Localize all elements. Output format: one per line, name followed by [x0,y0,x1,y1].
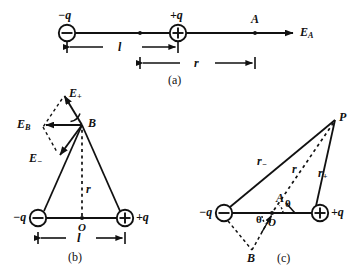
distance-label-r-b: r [86,183,91,195]
charge-label-positive-b: +q [136,211,149,223]
negative-charge-symbol-a [59,25,75,41]
origin-label-O-c: O [268,217,276,228]
charge-label-positive-a: +q [170,9,183,21]
angle-label-theta-upper-c: θ [285,198,291,209]
vector-label-E-plus-b: E+ [69,87,82,101]
negative-charge-symbol-c [216,205,232,221]
dimension-label-l-a: l [118,41,121,53]
vector-label-E-B-b: EB [17,118,30,132]
charge-label-positive-c: +q [331,206,344,218]
construction-line-b-1 [43,99,62,127]
angle-label-theta-lower-c: θ [256,214,262,225]
panel-c [216,120,335,250]
E-minus-subscript: − [37,157,42,166]
angle-arc-theta-lower-c [262,216,266,224]
positive-charge-symbol-b [117,210,133,226]
panel-tag-b: (b) [68,251,82,263]
vector-label-E-minus-b: E− [29,152,42,166]
point-label-B-c: B [247,252,255,264]
dipole-field-figure [0,0,358,271]
E-B-subscript: B [25,123,30,132]
charge-label-negative-b: −q [13,211,26,223]
point-A-dot-a [253,31,257,35]
field-label-E-A: EA [300,26,313,40]
charge-label-negative-c: −q [199,206,212,218]
axis-tick-dot-a [138,31,142,35]
point-label-P-c: P [339,111,346,123]
r-minus-subscript: − [262,160,267,169]
distance-label-r-minus-c: r− [257,155,267,169]
dimension-label-r-a: r [194,57,199,69]
panel-a [59,25,293,69]
distance-label-r-c: r [292,163,297,175]
positive-charge-symbol-c [312,205,328,221]
dimension-l-b [38,232,125,244]
positive-charge-symbol-a [170,25,186,41]
construction-line-c-1 [228,221,252,250]
charge-label-negative-a: −q [58,9,71,21]
point-label-A-c: A [276,192,284,204]
leg-plus-to-B [82,125,120,211]
panel-tag-a: (a) [168,74,181,86]
angle-arc-theta-upper-c [280,206,284,214]
point-label-A-a: A [251,13,259,25]
dimension-label-l-b: l [77,231,81,244]
panel-tag-c: (c) [277,252,290,264]
point-label-B-b: B [88,117,96,129]
negative-charge-symbol-b [30,210,46,226]
origin-O-dot-c [270,211,274,215]
dimension-l-a [67,41,178,53]
E-plus-subscript: + [77,92,82,101]
field-E-A-subscript: A [308,31,313,40]
construction-line-b-2 [43,127,57,152]
origin-O-dot-b [80,216,84,220]
r-plus-subscript: + [323,172,328,181]
distance-label-r-plus-c: r+ [318,167,327,181]
